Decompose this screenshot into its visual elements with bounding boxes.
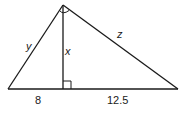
right-angle-mark-foot [63,81,71,89]
label-base-right: 12.5 [107,94,128,106]
label-base-left: 8 [35,94,41,106]
side-z [63,5,178,89]
triangle-figure: y x z 8 12.5 [0,0,184,113]
label-z: z [116,28,123,40]
side-y [8,5,63,89]
label-x: x [64,45,71,57]
right-angle-mark-apex [60,11,70,13]
triangle-diagram: y x z 8 12.5 [0,0,184,113]
label-y: y [25,40,33,52]
